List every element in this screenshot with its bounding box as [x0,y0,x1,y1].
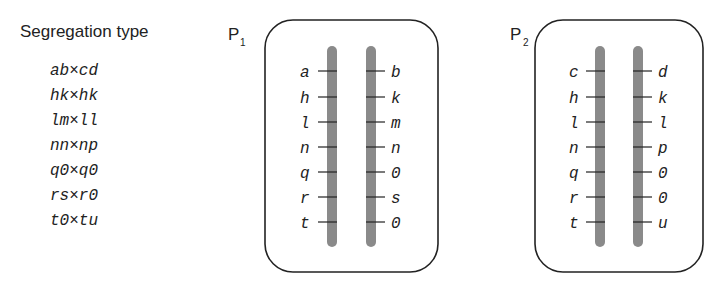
p2-right-allele: l [658,115,668,133]
p1-left-allele: q [300,165,310,183]
p2-right-allele: u [658,215,668,233]
p2-left-allele: l [569,115,579,133]
parent-p2: P 2 c h l n q r t d k l p 0 0 u [510,20,703,272]
parent-p1: P 1 a h l n q r t b k m n 0 s 0 [228,20,438,272]
p2-right-allele: 0 [658,165,668,183]
parent-p2-label: P [510,25,521,44]
parent-p2-subscript: 2 [523,37,529,48]
parent-p1-subscript: 1 [240,37,246,48]
p1-right-allele: 0 [391,215,401,233]
p2-left-allele: h [569,90,579,108]
parent-chromosome-diagram: P 1 a h l n q r t b k m n 0 s 0 P 2 [0,0,725,295]
p1-left-allele: l [300,115,310,133]
p1-left-allele: h [300,90,310,108]
parent-p1-cell-outline [265,20,438,272]
p1-left-allele: a [300,64,310,82]
p1-right-allele: n [391,140,401,158]
p1-right-allele: b [391,64,401,82]
p1-right-allele: k [391,90,401,108]
p2-right-allele: d [658,64,668,82]
p2-right-allele: k [658,90,668,108]
p2-left-allele: q [569,165,579,183]
p2-right-allele: 0 [658,190,668,208]
p2-left-allele: r [569,190,579,208]
p2-right-allele: p [657,140,668,158]
p2-left-allele: n [569,140,579,158]
p1-right-allele: 0 [391,165,401,183]
parent-p1-label: P [228,25,239,44]
p1-right-allele: m [391,115,401,133]
p2-left-allele: c [569,64,579,82]
p1-left-allele: r [300,190,310,208]
p1-left-allele: n [300,140,310,158]
p2-left-allele: t [569,215,579,233]
parent-p2-cell-outline [535,20,703,272]
p1-left-allele: t [300,215,310,233]
p1-right-allele: s [391,190,401,208]
